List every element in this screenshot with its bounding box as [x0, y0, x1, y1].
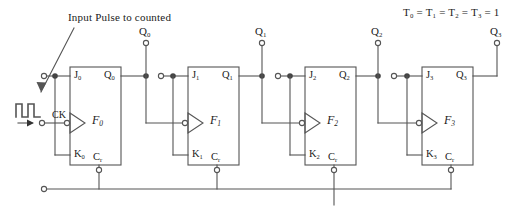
clock-label: CK [52, 110, 66, 120]
ff2-name-label: F2 [327, 114, 338, 126]
t-condition-label: T0 = T1 = T2 = T3 = 1 [403, 7, 500, 18]
ff2-k-label: K2 [309, 149, 320, 160]
ff1-cr-label: Cr [211, 152, 220, 163]
ff1-clock-bubble [182, 120, 187, 125]
ff2-j-terminal [275, 73, 280, 78]
input-arrow [18, 120, 34, 127]
q2-output-terminal [375, 40, 380, 45]
ff0-name-label: F0 [92, 114, 103, 126]
ff2-j-label: J2 [309, 70, 316, 81]
ff1-j-label: J1 [192, 70, 199, 81]
ff3-k-label: K3 [426, 149, 437, 160]
ff1-clock-triangle [188, 113, 203, 133]
ff3-q-label: Q3 [456, 70, 467, 81]
ff0-clock-bubble [64, 120, 69, 125]
ff2-cr-terminal [331, 167, 336, 172]
ff0-j-terminal [41, 73, 46, 78]
ff1-k-label: K1 [192, 149, 203, 160]
ff0-clock-terminal [39, 120, 44, 125]
q3-output-terminal [494, 40, 499, 45]
reset-bus [41, 186, 451, 191]
ff2-cr-label: Cr [328, 152, 337, 163]
q0-terminal-label: Q0 [139, 26, 150, 37]
ff2-clock-bubble [299, 120, 304, 125]
ff3-cr-terminal [448, 167, 453, 172]
ff0-cr-label: Cr [93, 152, 102, 163]
ff2-clock-triangle [305, 113, 320, 133]
ff1-j-terminal [158, 73, 163, 78]
q1-output-terminal [259, 40, 264, 45]
ff2-q-label: Q2 [339, 70, 350, 81]
ff0-q-label: Q0 [104, 70, 115, 81]
reset-bus-terminal [41, 186, 46, 191]
q1-terminal-label: Q1 [255, 26, 266, 37]
q3-terminal-label: Q3 [490, 26, 501, 37]
ff1-name-label: F1 [210, 114, 221, 126]
ff0-k-label: K0 [74, 149, 85, 160]
ff0-j-junction [52, 73, 58, 79]
diagram-title: Input Pulse to counted [68, 12, 171, 23]
ripple-counter-diagram: Input Pulse to counted T0 = T1 = T2 = T3… [0, 0, 526, 209]
ff3-cr-label: Cr [445, 152, 454, 163]
ff1-q-label: Q1 [222, 70, 233, 81]
ff0-cr-terminal [96, 167, 101, 172]
ff0-clock-triangle [70, 113, 85, 133]
ff0-j-label: J0 [74, 70, 81, 81]
ff3-clock-triangle [422, 113, 437, 133]
ff3-name-label: F3 [444, 114, 455, 126]
ff3-clock-bubble [416, 120, 421, 125]
q2-terminal-label: Q2 [371, 26, 382, 37]
ff3-j-label: J3 [426, 70, 433, 81]
input-pulse-waveform [16, 104, 40, 117]
ff1-cr-terminal [214, 167, 219, 172]
ff3-j-terminal [391, 73, 396, 78]
q0-output-terminal [143, 40, 148, 45]
